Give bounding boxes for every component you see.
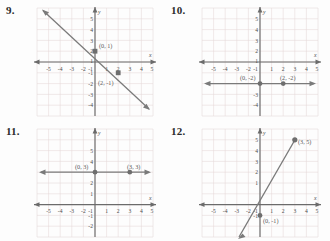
point-label-9-b: (2, -1) [98, 79, 113, 87]
point-label-11-b: (3, 3) [127, 163, 140, 171]
svg-text:4: 4 [255, 148, 258, 154]
svg-text:2: 2 [117, 208, 120, 214]
svg-text:1: 1 [105, 208, 108, 214]
svg-text:4: 4 [90, 27, 93, 33]
worksheet-page: 9. [0, 0, 330, 241]
svg-text:3: 3 [255, 159, 258, 165]
svg-text:-3: -3 [69, 208, 74, 214]
svg-text:3: 3 [90, 38, 93, 44]
svg-text:-2: -2 [246, 208, 251, 214]
point-marker [258, 213, 263, 218]
svg-text:-1: -1 [253, 213, 258, 219]
y-axis-label-9: y [97, 9, 101, 15]
svg-text:2: 2 [255, 169, 258, 175]
svg-text:3: 3 [255, 38, 258, 44]
svg-text:3: 3 [128, 208, 131, 214]
point-label-10-a: (0, -2) [240, 74, 255, 82]
point-label-11-a: (0, 3) [75, 163, 88, 171]
problem-number-10: 10. [171, 4, 185, 16]
svg-text:-2: -2 [81, 208, 86, 214]
problem-number-12: 12. [171, 125, 185, 137]
svg-text:5: 5 [255, 16, 258, 22]
point-marker [258, 81, 263, 86]
svg-text:-2: -2 [88, 223, 93, 229]
x-axis-label-11: x [148, 195, 152, 201]
svg-text:3: 3 [293, 66, 296, 72]
svg-text:5: 5 [255, 137, 258, 143]
point-marker [93, 49, 98, 54]
svg-text:-5: -5 [46, 66, 51, 72]
point-marker [127, 170, 132, 175]
svg-text:5: 5 [151, 66, 154, 72]
svg-text:1: 1 [270, 66, 273, 72]
point-label-12-b: (3, 5) [298, 138, 311, 146]
svg-text:5: 5 [316, 66, 319, 72]
svg-text:3: 3 [128, 66, 131, 72]
svg-text:-2: -2 [88, 81, 93, 87]
point-marker [281, 81, 286, 86]
svg-text:-3: -3 [253, 92, 258, 98]
svg-text:1: 1 [90, 58, 93, 64]
problem-12: 12. [165, 121, 330, 241]
point-marker [116, 70, 121, 75]
y-axis-label-10: y [262, 9, 266, 15]
graph-10: -5 -4 -3 -2 -1 1 2 3 4 5 5 4 3 2 1 [197, 6, 323, 118]
svg-text:4: 4 [305, 66, 308, 72]
svg-text:-4: -4 [223, 66, 228, 72]
svg-text:-4: -4 [58, 66, 63, 72]
svg-text:-3: -3 [88, 92, 93, 98]
graph-9: -5 -4 -3 -2 -1 1 2 3 4 5 5 4 3 2 1 [32, 6, 158, 118]
svg-text:2: 2 [90, 180, 93, 186]
problem-11: 11. [0, 121, 165, 241]
point-marker [93, 170, 98, 175]
problem-number-9: 9. [6, 4, 15, 16]
x-axis-label-9: x [148, 52, 152, 58]
problem-10: 10. [165, 0, 330, 120]
point-label-12-a: (0, -1) [263, 217, 278, 225]
y-axis-label-12: y [262, 130, 266, 136]
svg-text:1: 1 [90, 191, 93, 197]
x-axis-label-12: x [313, 195, 317, 201]
svg-text:-4: -4 [223, 208, 228, 214]
svg-text:-1: -1 [253, 66, 258, 72]
problem-number-11: 11. [6, 125, 20, 137]
svg-text:-5: -5 [46, 208, 51, 214]
svg-text:-5: -5 [211, 208, 216, 214]
svg-text:4: 4 [90, 159, 93, 165]
svg-text:1: 1 [255, 180, 258, 186]
svg-text:-1: -1 [88, 213, 93, 219]
svg-text:-4: -4 [58, 208, 63, 214]
svg-text:5: 5 [90, 16, 93, 22]
svg-text:-4: -4 [88, 102, 93, 108]
svg-text:-2: -2 [246, 66, 251, 72]
svg-text:3: 3 [293, 208, 296, 214]
point-label-9-a: (0, 1) [99, 42, 112, 50]
svg-text:-4: -4 [253, 102, 258, 108]
svg-text:-3: -3 [69, 66, 74, 72]
svg-text:2: 2 [255, 48, 258, 54]
x-axis-label-10: x [313, 52, 317, 58]
svg-text:-3: -3 [234, 208, 239, 214]
svg-text:4: 4 [305, 208, 308, 214]
svg-text:5: 5 [151, 208, 154, 214]
svg-text:1: 1 [270, 208, 273, 214]
svg-text:4: 4 [140, 66, 143, 72]
svg-text:4: 4 [140, 208, 143, 214]
svg-text:-1: -1 [88, 70, 93, 76]
svg-text:-3: -3 [234, 66, 239, 72]
graph-12: -5 -4 -3 -2 -1 1 2 3 4 5 5 4 3 2 1 [197, 127, 323, 239]
point-label-10-b: (2, -2) [280, 74, 295, 82]
svg-text:2: 2 [282, 208, 285, 214]
svg-text:1: 1 [255, 58, 258, 64]
point-marker [292, 137, 297, 142]
svg-text:-5: -5 [211, 66, 216, 72]
y-axis-label-11: y [97, 130, 101, 136]
graph-11: -5 -4 -3 -2 -1 1 2 3 4 5 5 4 2 1 -1 [32, 127, 158, 239]
svg-text:5: 5 [316, 208, 319, 214]
svg-text:4: 4 [255, 27, 258, 33]
problem-9: 9. [0, 0, 165, 120]
svg-text:5: 5 [90, 148, 93, 154]
svg-text:2: 2 [282, 66, 285, 72]
svg-text:-2: -2 [81, 66, 86, 72]
